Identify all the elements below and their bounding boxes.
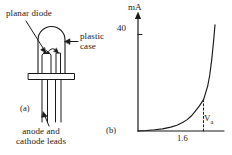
diode-figure: planar diode plastic case (a) anode and … bbox=[0, 0, 232, 155]
callout-planar-diode: planar diode bbox=[6, 9, 52, 19]
y-axis-label: mA bbox=[128, 3, 142, 13]
cathode-post bbox=[56, 53, 61, 74]
x-tick-label-1p6: 1.6 bbox=[177, 134, 188, 143]
x-axis-label-subscript: a bbox=[211, 118, 214, 125]
callout-plastic-case: plastic case bbox=[80, 32, 104, 51]
case-flange bbox=[29, 74, 75, 80]
callout-plastic-case-line2: case bbox=[80, 42, 104, 52]
panel-a-caption: (a) bbox=[20, 104, 30, 113]
callout-leads-line2: cathode leads bbox=[16, 137, 66, 147]
reflector-cup bbox=[42, 51, 51, 75]
callout-anode-cathode-leads: anode and cathode leads bbox=[16, 127, 66, 146]
panel-b-iv-characteristic: mA 40 Va 1.6 (b) bbox=[116, 0, 232, 155]
panel-b-caption: (b) bbox=[106, 126, 116, 135]
iv-characteristic-chart bbox=[116, 0, 232, 155]
leads-leader-arrowhead bbox=[42, 112, 48, 118]
panel-a-led-construction: planar diode plastic case (a) anode and … bbox=[0, 0, 116, 155]
cathode-lead bbox=[56, 80, 62, 123]
y-tick-label-40: 40 bbox=[117, 24, 126, 34]
x-axis-label: Va bbox=[204, 114, 214, 125]
x-axis-label-symbol: V bbox=[204, 113, 211, 123]
